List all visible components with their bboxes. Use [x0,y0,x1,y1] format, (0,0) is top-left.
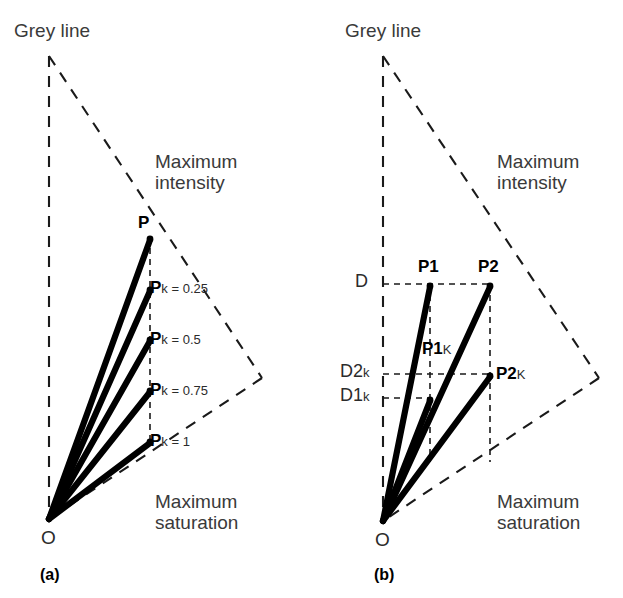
panel-b-caption: (b) [374,566,394,583]
panel-b-point-label-P1: P1 [418,258,439,276]
panel-a-point-sub-P-k075: k = 0.75 [161,383,208,398]
figure-root: Grey line Maximum intensity Maximum satu… [0,0,623,598]
panel-b-point-base-P2: P2 [478,257,499,276]
panel-b-point-sub-P1K: K [443,342,452,357]
panel-a-max-intensity-line2: intensity [155,173,237,194]
panel-a-grey-line-label: Grey line [14,21,90,42]
panel-b-axis-sub-D2k: k [363,365,370,380]
panel-b-axis-sub-D1k: k [363,389,370,404]
panel-b-point-label-P2K: P2K [496,365,525,383]
panel-b-axis-base-D2k: D2 [340,361,363,381]
panel-b-axis-label-D: D [355,272,368,291]
panel-a-point-label-P-k025: Pk = 0.25 [150,279,208,297]
panel-b-max-intensity-line2: intensity [497,173,579,194]
panel-a-point-base-P-k1: P [150,431,161,450]
panel-b-point-base-P1: P1 [418,257,439,276]
panel-a-max-intensity-label: Maximum intensity [155,152,237,193]
panel-b-point-label-P1K: P1K [422,340,451,358]
panel-b-axis-base-D1k: D1 [340,385,363,405]
panel-a-point-base-P-k025: P [150,278,161,297]
panel-b-point-label-P2: P2 [478,258,499,276]
panel-b-axis-base-D: D [355,271,368,291]
panel-b-grey-line-label: Grey line [345,21,421,42]
panel-a-max-saturation-line1: Maximum [155,492,238,513]
panel-b-tip-P2K [487,373,494,380]
panel-a-caption: (a) [40,566,60,583]
panel-a-max-saturation-label: Maximum saturation [155,492,238,533]
panel-b-max-intensity-line1: Maximum [497,152,579,173]
panel-b-axis-label-D2k: D2k [340,362,370,381]
panel-a-tip-P [147,236,154,243]
panel-b-point-base-P1K: P1 [422,339,443,358]
panel-b-tip-P1 [427,283,434,290]
panel-a-max-saturation-line2: saturation [155,513,238,534]
panel-a-ray-P-k05 [49,341,150,519]
panel-a-origin-label: O [41,528,56,549]
panel-a-point-label-P: P [138,214,149,232]
panel-a-point-base-P-k05: P [150,329,161,348]
panel-b-max-intensity-edge [383,56,599,378]
panel-b-max-saturation-label: Maximum saturation [497,492,580,533]
panel-a-max-intensity-line1: Maximum [155,152,237,173]
panel-a-point-sub-P-k025: k = 0.25 [161,281,208,296]
panel-b-max-saturation-line2: saturation [497,513,580,534]
panel-b-point-sub-P2K: K [517,367,526,382]
panel-b-geometry [383,56,599,521]
panel-a-point-sub-P-k05: k = 0.5 [161,332,200,347]
panel-a-point-base-P-k075: P [150,380,161,399]
panel-a-point-label-P-k075: Pk = 0.75 [150,381,208,399]
panel-b-tip-P1K [427,397,434,404]
panel-b-max-intensity-label: Maximum intensity [497,152,579,193]
panel-b-tip-P2 [487,283,494,290]
panel-b-max-saturation-line1: Maximum [497,492,580,513]
panel-a-point-label-P-k05: Pk = 0.5 [150,330,201,348]
panel-b-origin-label: O [375,530,390,551]
panel-b-point-base-P2K: P2 [496,364,517,383]
panel-a-point-base-P: P [138,213,149,232]
panel-a-point-sub-P-k1: k = 1 [161,434,190,449]
panel-a-point-label-P-k1: Pk = 1 [150,432,190,450]
panel-b-axis-label-D1k: D1k [340,386,370,405]
